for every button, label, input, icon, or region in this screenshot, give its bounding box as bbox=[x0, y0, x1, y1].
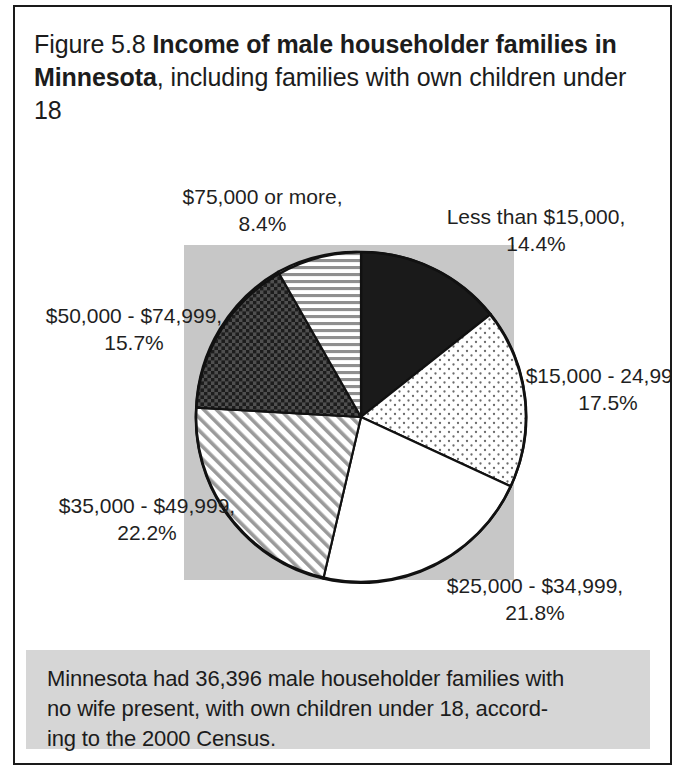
pie-label-25000-34999: $25,000 - $34,999, 21.8% bbox=[419, 572, 651, 626]
pie-label-75000-or-more-name: $75,000 or more, bbox=[183, 185, 343, 208]
pie-label-15000-24999: $15,000 - 24,999, 17.5% bbox=[515, 362, 672, 416]
pie-label-less-than-15000-pct: 14.4% bbox=[421, 230, 651, 257]
pie-label-75000-or-more: $75,000 or more, 8.4% bbox=[155, 183, 370, 237]
pie-label-15000-24999-name: $15,000 - 24,999, bbox=[526, 364, 672, 387]
pie-label-35000-49999: $35,000 - $49,999, 22.2% bbox=[33, 492, 261, 546]
pie-label-50000-74999-name: $50,000 - $74,999, bbox=[46, 304, 222, 327]
figure-container: Figure 5.8 Income of male householder fa… bbox=[13, 5, 672, 765]
pie-label-less-than-15000-name: Less than $15,000, bbox=[447, 205, 626, 228]
pie-label-25000-34999-pct: 21.8% bbox=[419, 599, 651, 626]
pie-label-25000-34999-name: $25,000 - $34,999, bbox=[447, 574, 623, 597]
figure-number: Figure 5.8 bbox=[34, 30, 152, 58]
pie-label-35000-49999-pct: 22.2% bbox=[33, 519, 261, 546]
footnote-line-2: no wife present, with own children under… bbox=[47, 696, 548, 721]
pie-label-less-than-15000: Less than $15,000, 14.4% bbox=[421, 203, 651, 257]
footnote-line-3: ing to the 2000 Census. bbox=[47, 726, 276, 751]
pie-label-15000-24999-pct: 17.5% bbox=[515, 389, 672, 416]
footnote-box: Minnesota had 36,396 male householder fa… bbox=[26, 650, 650, 749]
pie-label-75000-or-more-pct: 8.4% bbox=[155, 210, 370, 237]
footnote-line-1: Minnesota had 36,396 male householder fa… bbox=[47, 666, 564, 691]
figure-title: Figure 5.8 Income of male householder fa… bbox=[34, 28, 634, 127]
pie-label-50000-74999-pct: 15.7% bbox=[23, 329, 245, 356]
footnote-text: Minnesota had 36,396 male householder fa… bbox=[47, 664, 637, 754]
pie-label-35000-49999-name: $35,000 - $49,999, bbox=[59, 494, 235, 517]
pie-label-50000-74999: $50,000 - $74,999, 15.7% bbox=[23, 302, 245, 356]
